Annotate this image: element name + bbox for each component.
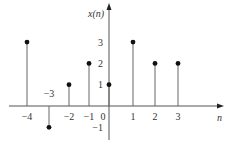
stem-marker-icon (176, 61, 181, 66)
stem-marker-icon (107, 82, 112, 87)
x-tick-labels: −4−3−2−10123 (22, 88, 181, 122)
x-tick-label: −3 (44, 88, 55, 99)
stem-marker-icon (153, 61, 158, 66)
x-tick-label: 2 (153, 111, 158, 122)
axes: n x(n) (9, 3, 224, 140)
x-axis-label: n (217, 112, 222, 123)
stem-marker-icon (87, 61, 92, 66)
stem-point (47, 106, 52, 130)
stem-point (87, 61, 92, 106)
stem-point (131, 40, 136, 106)
y-tick-label: 2 (98, 58, 103, 69)
x-tick-label: 3 (176, 111, 181, 122)
x-tick-label: −4 (22, 111, 33, 122)
x-tick-label: −1 (84, 111, 95, 122)
x-axis-arrow-icon (217, 104, 224, 109)
stem-point (107, 82, 112, 106)
y-axis-arrow-icon (107, 3, 112, 10)
stem-marker-icon (67, 82, 72, 87)
stem-marker-icon (47, 125, 52, 130)
stem-point (25, 40, 30, 106)
stem-marker-icon (131, 40, 136, 45)
stem-point (153, 61, 158, 106)
stem-point (67, 82, 72, 106)
stem-point (176, 61, 181, 106)
x-tick-label: −2 (64, 111, 75, 122)
x-tick-label: 1 (131, 111, 136, 122)
stem-marker-icon (25, 40, 30, 45)
y-axis-label: x(n) (87, 8, 105, 20)
stem-plot: n x(n) 321−1 −4−3−2−10123 (0, 0, 226, 151)
y-tick-label: 3 (98, 37, 103, 48)
y-tick-label: 1 (98, 79, 103, 90)
y-tick-label: −1 (92, 122, 103, 133)
x-tick-label: 0 (101, 111, 106, 122)
plot-area: n x(n) 321−1 −4−3−2−10123 (0, 0, 226, 151)
